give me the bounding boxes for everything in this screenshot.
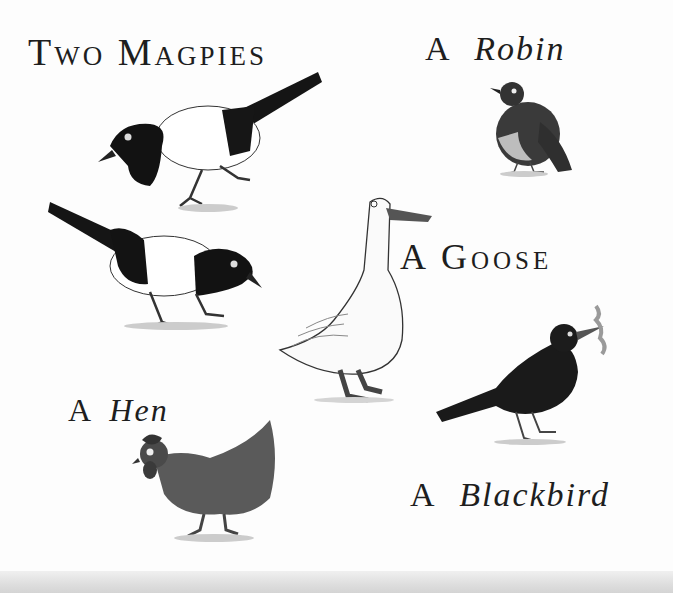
label-article: A [425, 30, 450, 67]
blackbird-illustration [436, 302, 616, 452]
label-a-robin: A Robin [425, 30, 565, 68]
label-article: A [68, 392, 91, 428]
label-blackbird: Blackbird [459, 476, 610, 513]
hen-illustration [130, 418, 280, 548]
robin-illustration [488, 82, 578, 178]
label-robin: Robin [474, 30, 565, 67]
paper-edge [0, 571, 673, 593]
label-a-blackbird: A Blackbird [410, 476, 610, 514]
magpie-illustration-2 [46, 196, 276, 336]
goose-illustration [278, 190, 438, 405]
label-article: A [410, 476, 435, 513]
